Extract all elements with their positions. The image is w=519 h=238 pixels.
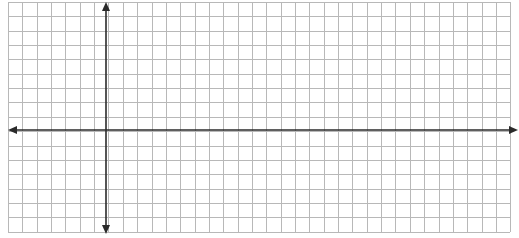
coordinate-plane	[0, 0, 519, 238]
grid-lines	[8, 2, 511, 233]
grid-svg	[0, 0, 519, 238]
arrow-left-icon	[8, 126, 17, 134]
arrow-right-icon	[509, 126, 518, 134]
